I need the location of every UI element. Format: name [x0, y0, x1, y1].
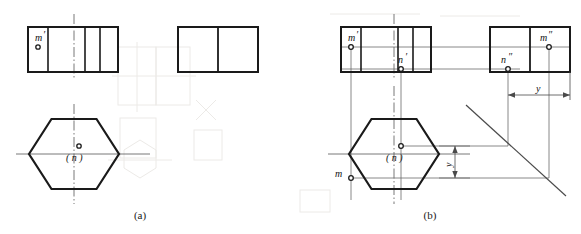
label-m-double-prime-b-text: m: [540, 32, 547, 43]
point-marker-m-b: [349, 176, 354, 181]
label-n-a-text: ( n ): [66, 152, 83, 164]
point-marker-n-double-prime-b: [506, 67, 511, 72]
label-m-b-text: m: [335, 168, 342, 179]
point-marker-n-prime-b: [399, 67, 404, 72]
point-marker-m-prime-b: [349, 45, 354, 50]
label-n-double-prime-b-text: n: [501, 54, 506, 65]
point-marker-m-double-prime-b: [547, 45, 552, 50]
drawing-canvas: m ′ ( n ) (a): [0, 0, 581, 234]
page-background: [0, 0, 581, 234]
label-m-prime-a-text: m: [35, 32, 42, 43]
label-n-paren-b-text: ( n ): [386, 152, 403, 164]
y-dimension-top-text: y: [443, 162, 454, 168]
y-dimension-side-text: y: [535, 83, 541, 94]
point-marker-n-b: [399, 144, 404, 149]
engineering-drawing-figure: m ′ ( n ) (a): [0, 0, 581, 234]
caption-b: (b): [424, 209, 437, 222]
label-m-prime-b-text: m: [348, 32, 355, 43]
caption-a: (a): [134, 209, 147, 222]
label-n-prime-b-text: n: [398, 54, 403, 65]
